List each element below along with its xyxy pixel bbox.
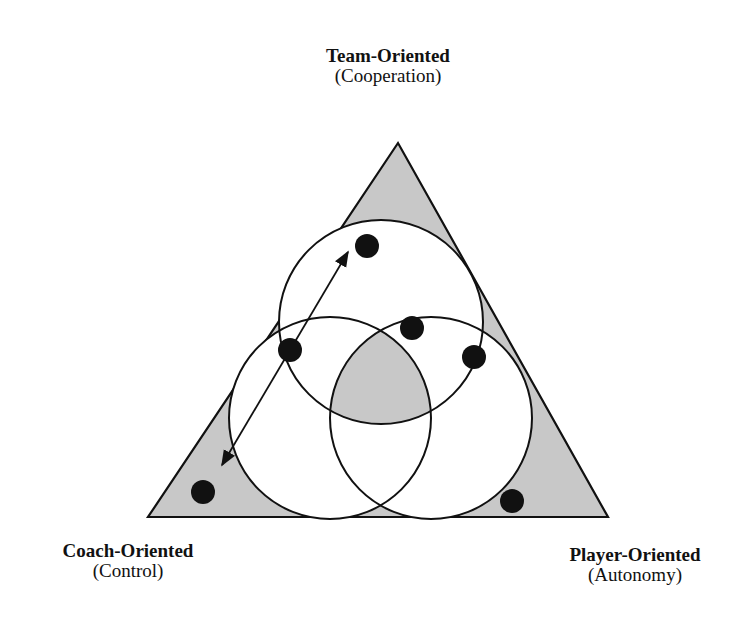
team-oriented-label: Team-Oriented (Cooperation) [288,46,488,86]
triangle-diagram [0,0,746,631]
vertex-title: Team-Oriented [288,46,488,66]
vertex-subtitle: (Autonomy) [525,565,745,585]
vertex-title: Player-Oriented [525,545,745,565]
dot [191,480,215,504]
dot [462,345,486,369]
player-oriented-label: Player-Oriented (Autonomy) [525,545,745,585]
dot [278,338,302,362]
vertex-title: Coach-Oriented [18,541,238,561]
vertex-subtitle: (Control) [18,561,238,581]
dot [400,316,424,340]
coach-oriented-label: Coach-Oriented (Control) [18,541,238,581]
vertex-subtitle: (Cooperation) [288,66,488,86]
dot [500,489,524,513]
dot [355,234,379,258]
